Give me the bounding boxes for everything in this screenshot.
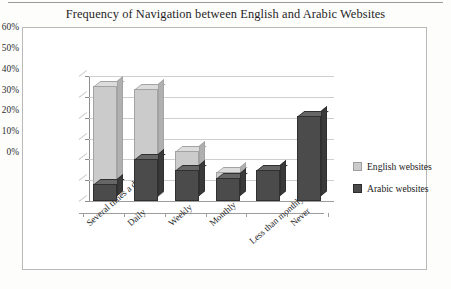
bar-face [256, 170, 280, 201]
bar-arabic [93, 184, 117, 201]
y-axis-tick-label: 50% [0, 43, 19, 53]
plot-area [89, 76, 334, 201]
bar-side [240, 168, 246, 196]
bar-arabic [297, 116, 321, 201]
x-axis-tick [328, 213, 329, 217]
y-axis-labels: 60%50%40%30%20%10%0% [0, 28, 19, 154]
x-axis-tick [124, 213, 125, 217]
x-axis-tick [83, 213, 84, 217]
y-axis-tick-label: 60% [0, 22, 19, 32]
x-axis-category-labels: Several times a dayDailyWeeklyMonthlyLes… [89, 218, 349, 289]
chart-title: Frequency of Navigation between English … [0, 7, 451, 22]
bar-slot [216, 76, 256, 201]
bar-face [93, 184, 117, 201]
bar-side [280, 160, 286, 196]
x-axis-tick [246, 213, 247, 217]
bar-face [297, 116, 321, 201]
legend-item: English websites [353, 161, 449, 172]
bar-side [199, 160, 205, 196]
bar-arabic [175, 170, 199, 201]
bar-side [158, 149, 164, 196]
bar-slot [256, 76, 296, 201]
bar-arabic [256, 170, 280, 201]
bar-side [321, 106, 327, 196]
bar-slot [134, 76, 174, 201]
y-axis-tick-label: 40% [0, 64, 19, 74]
chart-legend: English websitesArabic websites [353, 161, 449, 205]
y-axis-tick-label: 0% [0, 147, 19, 157]
x-axis-tick [206, 213, 207, 217]
bar-face [216, 178, 240, 201]
legend-label: English websites [367, 161, 432, 172]
y-axis-tick-label: 10% [0, 126, 19, 136]
x-axis-tick [165, 213, 166, 217]
y-axis-tick-label: 30% [0, 85, 19, 95]
legend-label: Arabic websites [367, 183, 429, 194]
bar-slot [297, 76, 337, 201]
y-axis-tick-label: 20% [0, 105, 19, 115]
chart-frame: 60%50%40%30%20%10%0% Several times a day… [22, 27, 427, 270]
bar-face [175, 170, 199, 201]
bar-arabic [134, 159, 158, 201]
legend-swatch-icon [353, 184, 362, 193]
legend-swatch-icon [353, 162, 362, 171]
legend-item: Arabic websites [353, 183, 449, 194]
bar-arabic [216, 178, 240, 201]
bar-slot [175, 76, 215, 201]
bar-face [134, 159, 158, 201]
page-top-rule [8, 2, 443, 3]
